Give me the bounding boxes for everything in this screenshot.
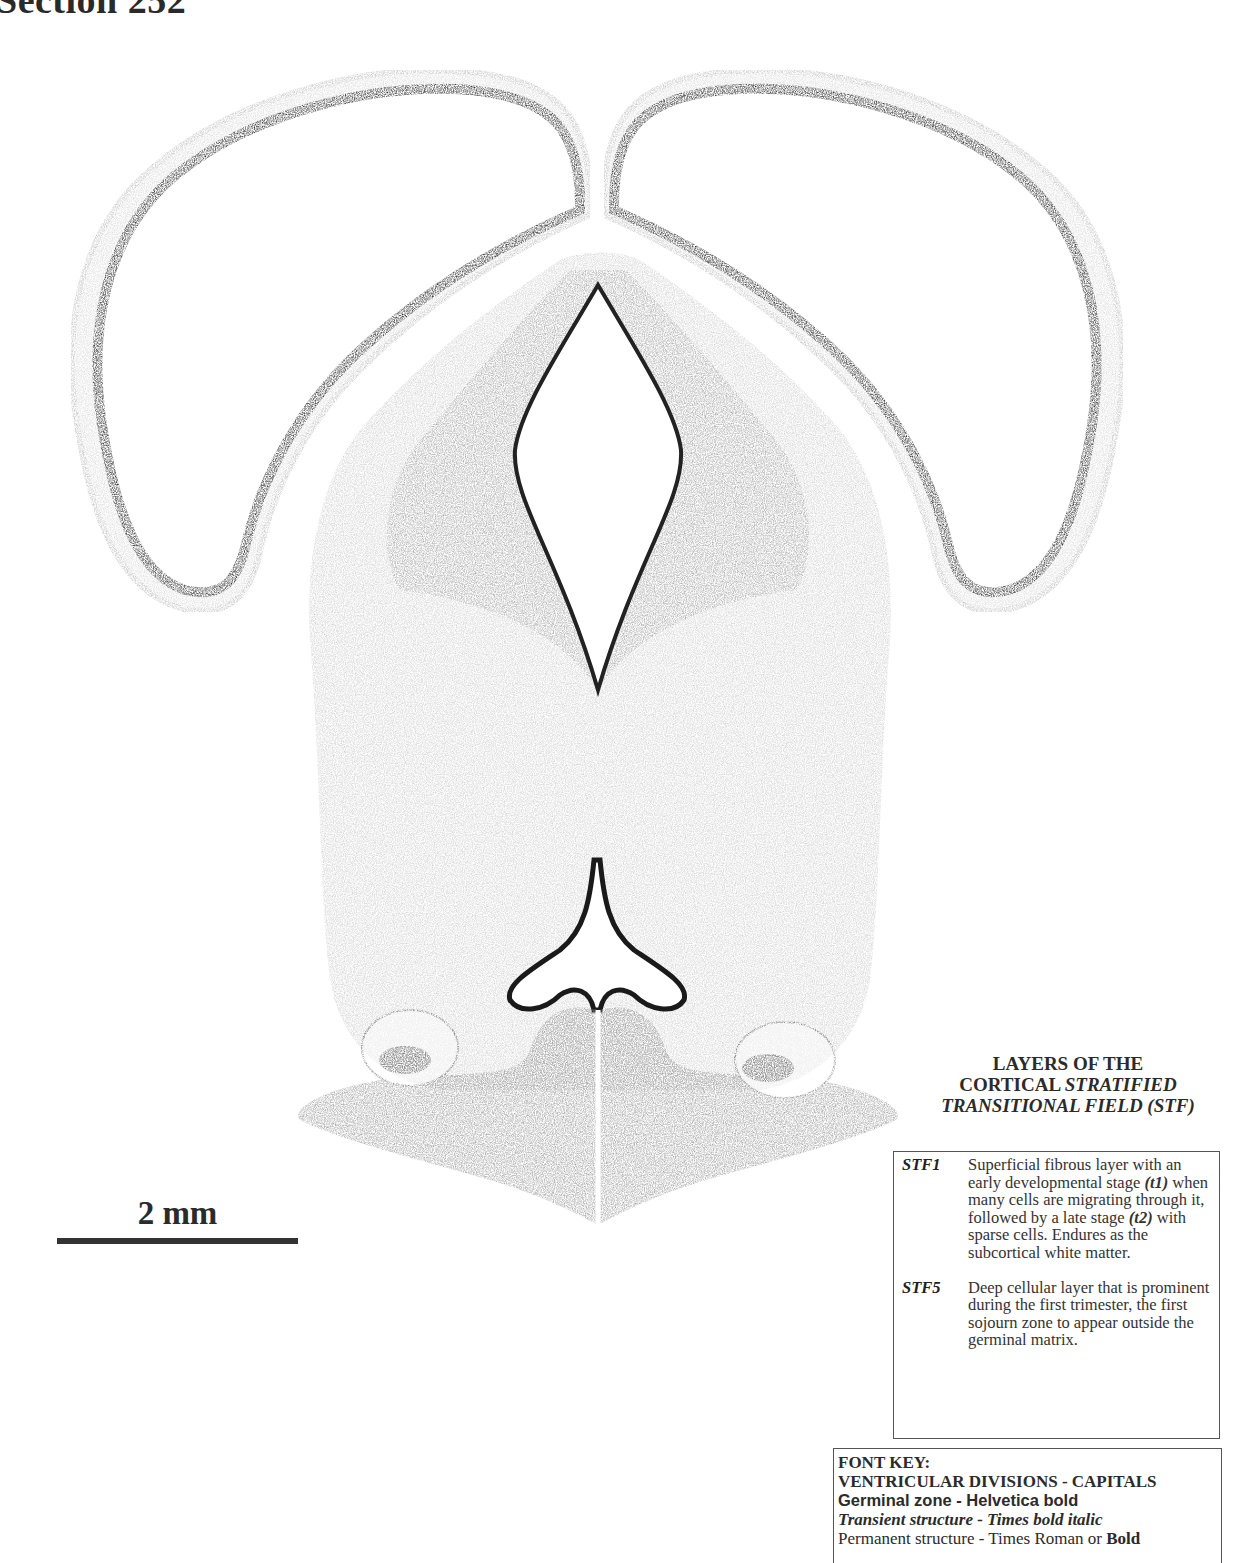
stf-description: Superficial fibrous layer with an early … xyxy=(968,1156,1213,1262)
stf-description: Deep cellular layer that is prominent du… xyxy=(968,1279,1213,1349)
font-key-transient: Transient structure - Times bold italic xyxy=(838,1510,1221,1529)
stf-item-stf5: STF5 Deep cellular layer that is promine… xyxy=(902,1279,1213,1349)
scale-bar-label: 2 mm xyxy=(57,1196,298,1230)
scale-bar: 2 mm xyxy=(57,1196,298,1244)
stf-title-line2: CORTICAL STRATIFIED xyxy=(880,1074,1256,1095)
font-key-germinal: Germinal zone - Helvetica bold xyxy=(838,1491,1221,1510)
stf-legend-title: LAYERS OF THE CORTICAL STRATIFIED TRANSI… xyxy=(880,1053,1256,1116)
scale-bar-line xyxy=(57,1238,298,1244)
stf-item-stf1: STF1 Superficial fibrous layer with an e… xyxy=(902,1156,1213,1262)
font-key-box: FONT KEY: VENTRICULAR DIVISIONS - CAPITA… xyxy=(833,1448,1222,1563)
stf-code: STF5 xyxy=(902,1279,968,1349)
stf-code: STF1 xyxy=(902,1156,968,1262)
stf-title-line1: LAYERS OF THE xyxy=(880,1053,1256,1074)
stf-title-line3: TRANSITIONAL FIELD (STF) xyxy=(880,1095,1256,1116)
font-key-permanent: Permanent structure - Times Roman or Bol… xyxy=(838,1529,1221,1548)
stf-legend-box: STF1 Superficial fibrous layer with an e… xyxy=(893,1151,1220,1439)
font-key-heading: FONT KEY: xyxy=(838,1453,1221,1472)
font-key-ventricular: VENTRICULAR DIVISIONS - CAPITALS xyxy=(838,1472,1221,1491)
